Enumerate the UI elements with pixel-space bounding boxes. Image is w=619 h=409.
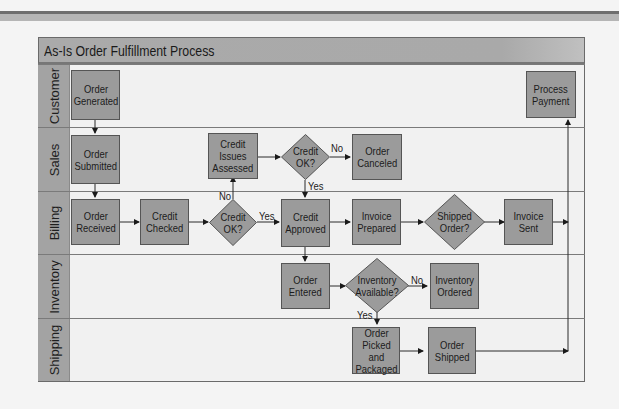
node-inventory-ordered: Inventory Ordered [430, 263, 479, 309]
node-label: Order Generated [73, 83, 118, 107]
node-label: Credit Approved [285, 211, 326, 235]
node-order-canceled: Order Canceled [352, 134, 402, 180]
node-order-picked-packaged: Order Picked and Packaged [352, 327, 400, 374]
node-inventory-available: Inventory Available? [345, 258, 409, 313]
node-label: Credit OK? [212, 211, 253, 235]
node-credit-approved: Credit Approved [281, 199, 330, 247]
node-label: Credit Issues Assessed [212, 138, 253, 174]
edge-label-inventory-yes: Yes [357, 309, 372, 321]
node-label: Invoice Prepared [357, 210, 396, 234]
edge-label-billing-no: No [219, 190, 231, 202]
node-credit-ok-billing: Credit OK? [209, 199, 257, 246]
node-order-submitted: Order Submitted [71, 135, 120, 184]
node-label: Order Picked and Packaged [355, 327, 397, 375]
edge-label-inventory-no: No [411, 274, 423, 286]
node-label: Order Received [76, 210, 115, 234]
node-order-entered: Order Entered [281, 263, 330, 309]
node-label: Order Shipped [435, 339, 470, 363]
node-credit-checked: Credit Checked [140, 199, 189, 245]
node-order-shipped: Order Shipped [428, 327, 476, 374]
node-process-payment: Process Payment [526, 71, 576, 118]
node-label: Shipped Order? [428, 210, 480, 234]
node-label: Order Entered [289, 274, 322, 298]
node-invoice-prepared: Invoice Prepared [352, 199, 401, 245]
node-invoice-sent: Invoice Sent [504, 199, 553, 245]
node-label: Inventory Available? [349, 274, 404, 298]
edge-label-sales-no: No [331, 142, 343, 154]
edge-label-sales-yes: Yes [308, 180, 323, 192]
node-order-generated: Order Generated [71, 70, 120, 120]
node-label: Credit OK? [284, 145, 326, 169]
node-label: Order Submitted [74, 148, 117, 172]
node-label: Invoice Sent [514, 210, 544, 234]
node-label: Process Payment [532, 83, 569, 107]
node-shipped-order: Shipped Order? [424, 194, 485, 250]
node-credit-issues-assessed: Credit Issues Assessed [208, 133, 258, 179]
node-label: Order Canceled [357, 145, 397, 169]
node-credit-ok-sales: Credit OK? [281, 134, 330, 180]
edge-label-billing-yes: Yes [259, 210, 274, 222]
node-order-received: Order Received [71, 199, 120, 245]
node-label: Credit Checked [146, 210, 183, 234]
node-label: Inventory Ordered [435, 274, 474, 298]
